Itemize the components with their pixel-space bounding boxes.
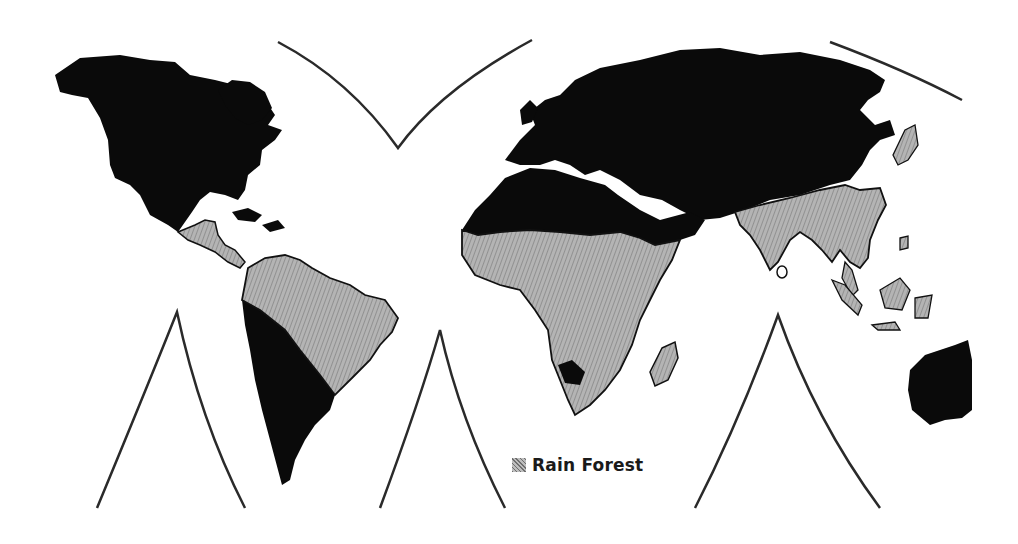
japan-rainforest <box>893 125 918 165</box>
world-map <box>0 0 1018 544</box>
map-legend: Rain Forest <box>512 455 643 475</box>
north-america <box>55 55 282 232</box>
australia <box>908 340 972 425</box>
legend-label-rain-forest: Rain Forest <box>532 455 643 475</box>
madagascar-rainforest <box>650 342 678 386</box>
central-america-rainforest <box>178 220 245 268</box>
sri-lanka <box>777 266 787 278</box>
africa-rainforest <box>462 230 680 415</box>
rain-forest-swatch-icon <box>512 458 526 472</box>
caribbean <box>232 208 285 232</box>
